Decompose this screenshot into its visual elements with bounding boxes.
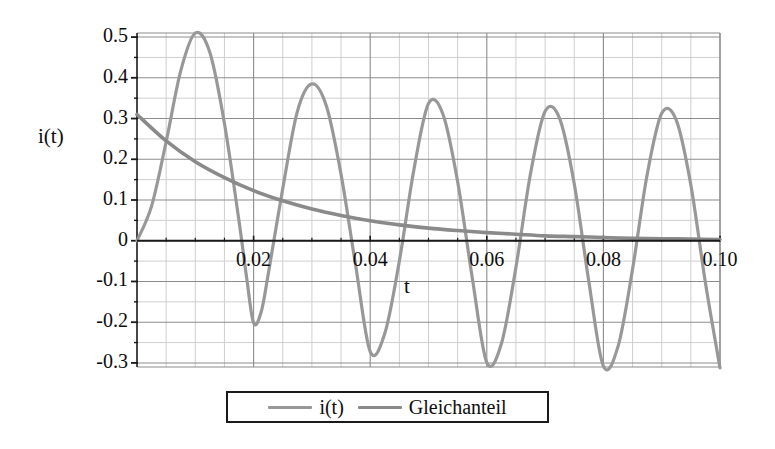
legend-item-1: Gleichanteil xyxy=(351,396,514,419)
x-tick-label: 0.06 xyxy=(452,248,522,271)
y-tick-label: 0.4 xyxy=(60,65,128,88)
x-tick-label: 0.04 xyxy=(335,248,405,271)
legend-swatch-gleichanteil xyxy=(358,406,402,409)
y-tick-label: 0.3 xyxy=(60,106,128,129)
legend-item-0: i(t) xyxy=(261,396,350,419)
y-tick-label: -0.3 xyxy=(60,350,128,373)
x-axis-label: t xyxy=(404,274,410,299)
x-tick-label: 0.10 xyxy=(685,248,755,271)
legend-label-it: i(t) xyxy=(319,396,343,419)
y-tick-label: -0.1 xyxy=(60,268,128,291)
x-tick-label: 0.02 xyxy=(219,248,289,271)
y-tick-label: 0.5 xyxy=(60,24,128,47)
x-tick-label: 0.08 xyxy=(568,248,638,271)
legend-label-gleichanteil: Gleichanteil xyxy=(409,396,507,419)
y-tick-label: 0 xyxy=(60,228,128,251)
y-tick-label: 0.2 xyxy=(60,146,128,169)
y-tick-label: 0.1 xyxy=(60,187,128,210)
chart-figure: i(t) t 0.50.40.30.20.10-0.1-0.2-0.3 0.02… xyxy=(0,0,775,449)
chart-legend: i(t) Gleichanteil xyxy=(226,391,549,423)
y-tick-label: -0.2 xyxy=(60,309,128,332)
legend-swatch-it xyxy=(268,406,312,409)
